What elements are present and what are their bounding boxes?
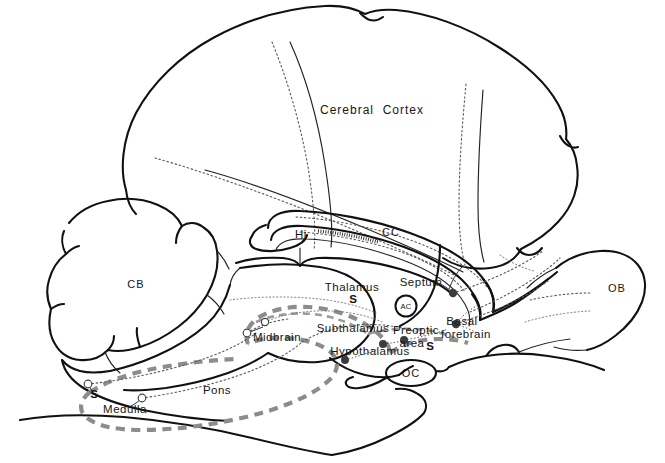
marker-dot-hypothalamus-lower <box>341 356 349 364</box>
label-pons: Pons <box>203 384 231 396</box>
label-cb: CB <box>127 278 144 290</box>
diagram-labels: Cerebral Cortex CB OB CC Hi OC Thalamus … <box>90 103 626 415</box>
label-medulla: Medulla <box>103 403 147 415</box>
cortex-sulci-lines <box>155 42 534 276</box>
label-septum: Septum <box>400 276 443 288</box>
label-cc: CC <box>382 226 400 238</box>
marker-open-medulla-lower <box>138 394 146 402</box>
label-midbrain: Midbrain <box>253 331 301 343</box>
label-ob: OB <box>608 282 626 294</box>
label-thalamus: Thalamus <box>325 281 380 293</box>
brain-diagram-figure: AC Cerebral Cortex CB OB CC Hi OC Thalam… <box>0 0 665 463</box>
label-subthalamus: Subthalamus <box>317 322 390 334</box>
cerebral-cortex-outline <box>123 6 578 269</box>
label-basal-forebrain-line1: Basal <box>446 315 477 327</box>
label-preoptic-serotonin: S <box>426 340 434 352</box>
brainstem-outline <box>20 285 426 455</box>
marker-open-midbrain-right <box>261 318 268 325</box>
label-thalamus-serotonin: S <box>349 293 357 305</box>
marker-dot-septum <box>449 289 457 297</box>
label-hypothalamus: Hypothalamus <box>330 345 410 357</box>
label-ac: AC <box>401 302 412 311</box>
marker-open-medulla-upper <box>84 380 92 388</box>
marker-open-midbrain-left <box>243 329 251 337</box>
label-oc: OC <box>402 367 421 379</box>
label-basal-forebrain-line2: forebrain <box>441 328 491 340</box>
anterior-commissure-group: AC <box>396 296 417 317</box>
label-medulla-serotonin: S <box>90 388 98 400</box>
label-preoptic-area-line2: area <box>399 337 424 349</box>
brain-diagram-svg: AC Cerebral Cortex CB OB CC Hi OC Thalam… <box>0 0 665 463</box>
olfactory-bulb-outline <box>519 251 645 352</box>
label-preoptic-area-line1: Preoptic <box>393 324 439 336</box>
label-cerebral-cortex: Cerebral Cortex <box>320 103 424 117</box>
label-hi: Hi <box>295 228 307 240</box>
